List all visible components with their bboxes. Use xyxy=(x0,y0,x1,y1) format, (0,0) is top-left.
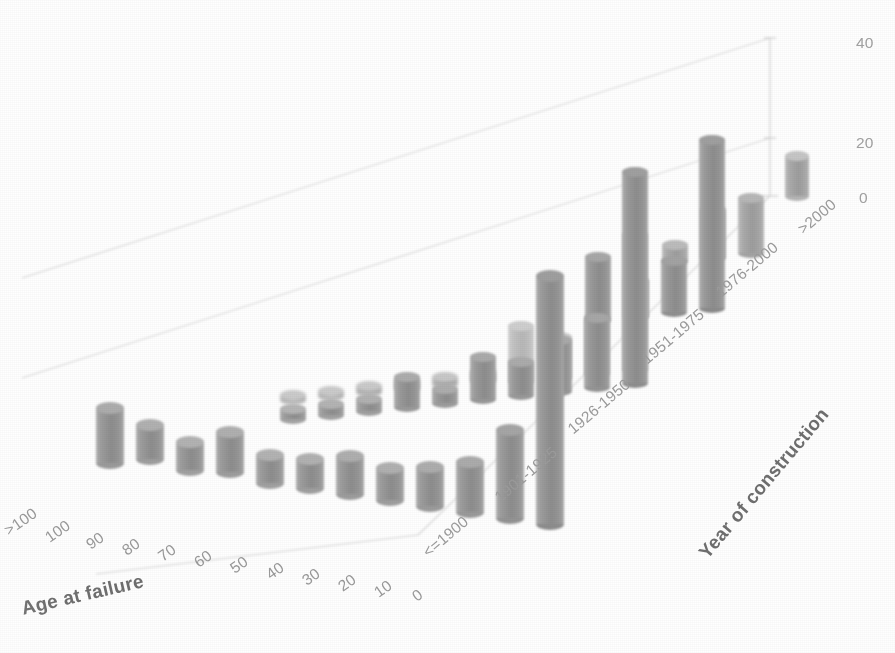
bar-row-1926-1950-low xyxy=(280,367,496,405)
bar xyxy=(256,449,284,489)
bar xyxy=(394,372,420,412)
bar xyxy=(356,394,382,416)
floor-front-edge xyxy=(96,535,418,574)
bar xyxy=(376,462,404,506)
bar xyxy=(432,384,458,408)
gridline-z40 xyxy=(22,38,770,278)
bar xyxy=(296,453,324,494)
bar xyxy=(216,426,244,478)
bar-row-1951-1975 xyxy=(585,135,725,325)
bar xyxy=(318,399,344,420)
bar xyxy=(536,270,564,530)
bar xyxy=(661,256,687,317)
bar xyxy=(584,313,610,392)
bar xyxy=(176,436,204,476)
z-tick-40: 40 xyxy=(856,34,874,52)
z-tick-20: 20 xyxy=(856,134,874,152)
bar xyxy=(508,357,534,400)
bar xyxy=(280,404,306,424)
bar xyxy=(336,450,364,500)
bar xyxy=(470,352,496,404)
z-tick-0: 0 xyxy=(859,189,868,207)
bar xyxy=(96,402,124,469)
chart-3d-column: >100 100 90 80 70 60 50 40 30 20 10 0 <=… xyxy=(0,0,895,653)
bar xyxy=(280,390,306,405)
bar xyxy=(318,386,344,401)
bar-row-gt2000 xyxy=(785,151,809,201)
bar xyxy=(785,151,809,201)
bar xyxy=(136,419,164,465)
bar xyxy=(416,461,444,512)
bar xyxy=(456,456,484,518)
